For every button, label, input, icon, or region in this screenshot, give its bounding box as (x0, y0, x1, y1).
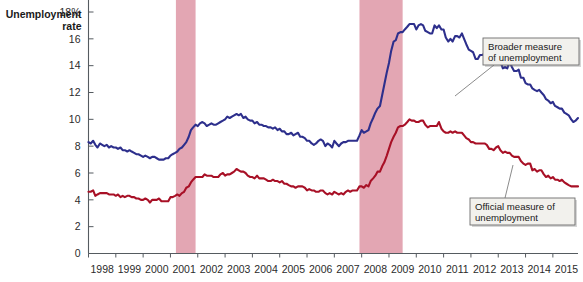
chart-canvas: 024681012141618% 19981999200020012002200… (0, 0, 583, 282)
axis-title-line2: rate (62, 20, 81, 32)
x-tick-label: 2009 (391, 263, 415, 275)
x-tick-label: 2006 (309, 263, 333, 275)
y-tick-label: 10 (69, 113, 81, 125)
x-tick-label: 2004 (254, 263, 278, 275)
x-tick-labels-group: 1998199920002001200220032004200520062007… (90, 263, 578, 275)
x-tick-label: 2010 (418, 263, 442, 275)
x-tick-label: 1999 (118, 263, 142, 275)
callouts-group: Broader measureof unemploymentOfficial m… (455, 38, 581, 227)
x-tick-label: 2013 (500, 263, 524, 275)
y-tick-label: 2 (75, 220, 81, 232)
x-tick-label: 2003 (227, 263, 251, 275)
x-tick-label: 2008 (364, 263, 388, 275)
x-tick-label: 2015 (555, 263, 579, 275)
unemployment-rate-chart: 024681012141618% 19981999200020012002200… (0, 0, 583, 282)
y-tick-label: 16 (69, 33, 81, 45)
broader-measure-callout-line1: Broader measure (488, 41, 562, 52)
x-tick-label: 1998 (90, 263, 114, 275)
y-tick-label: 4 (75, 194, 81, 206)
broader-measure-callout-leader-line (455, 65, 494, 96)
axis-title-group: Unemploymentrate (6, 8, 82, 32)
official-measure-callout-leader-line (505, 165, 513, 198)
axis-title-line1: Unemployment (6, 8, 82, 20)
official-measure-callout-line1: Official measure of (475, 201, 555, 212)
y-tick-label: 0 (75, 247, 81, 259)
series-line (89, 119, 579, 202)
x-tick-label: 2007 (336, 263, 360, 275)
x-tick-label: 2005 (282, 263, 306, 275)
y-tick-label: 8 (75, 140, 81, 152)
x-tick-label: 2012 (473, 263, 497, 275)
x-tick-label: 2001 (172, 263, 196, 275)
y-tick-label: 6 (75, 167, 81, 179)
x-tick-label: 2002 (200, 263, 224, 275)
x-tick-label: 2014 (528, 263, 552, 275)
official-measure-callout-line2: unemployment (475, 212, 538, 223)
x-tick-label: 2011 (446, 263, 469, 275)
y-tick-label: 14 (69, 59, 81, 71)
x-tick-label: 2000 (145, 263, 169, 275)
y-tick-labels-group: 024681012141618% (59, 6, 80, 260)
y-tick-label: 12 (69, 86, 81, 98)
broader-measure-callout-line2: of unemployment (488, 52, 562, 63)
